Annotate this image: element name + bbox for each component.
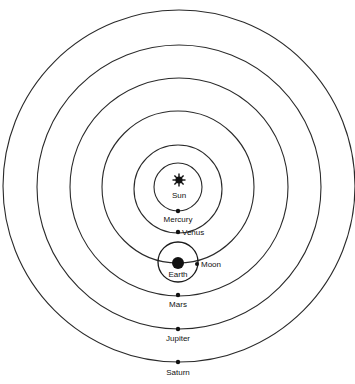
earth-dot	[172, 257, 184, 269]
orbit-earth	[102, 111, 254, 263]
moon-label: Moon	[201, 260, 221, 269]
moon-dot	[195, 262, 199, 266]
jupiter-label: Jupiter	[166, 334, 190, 343]
venus-label: Venus	[182, 228, 204, 237]
mars-label: Mars	[169, 300, 187, 309]
orbit-mercury	[154, 163, 202, 211]
saturn-label: Saturn	[166, 368, 190, 377]
sun-label: Sun	[172, 191, 186, 200]
jupiter-dot	[176, 327, 180, 331]
mars-dot	[176, 293, 180, 297]
mercury-label: Mercury	[164, 215, 193, 224]
mercury-dot	[176, 209, 180, 213]
venus-dot	[176, 230, 180, 234]
orbit-jupiter	[37, 45, 321, 329]
saturn-dot	[176, 360, 180, 364]
sun-icon	[173, 174, 186, 187]
solar-system-diagram: Sun Mercury Venus Earth Moon Mars Jupite…	[0, 0, 355, 384]
earth-label: Earth	[168, 270, 187, 279]
